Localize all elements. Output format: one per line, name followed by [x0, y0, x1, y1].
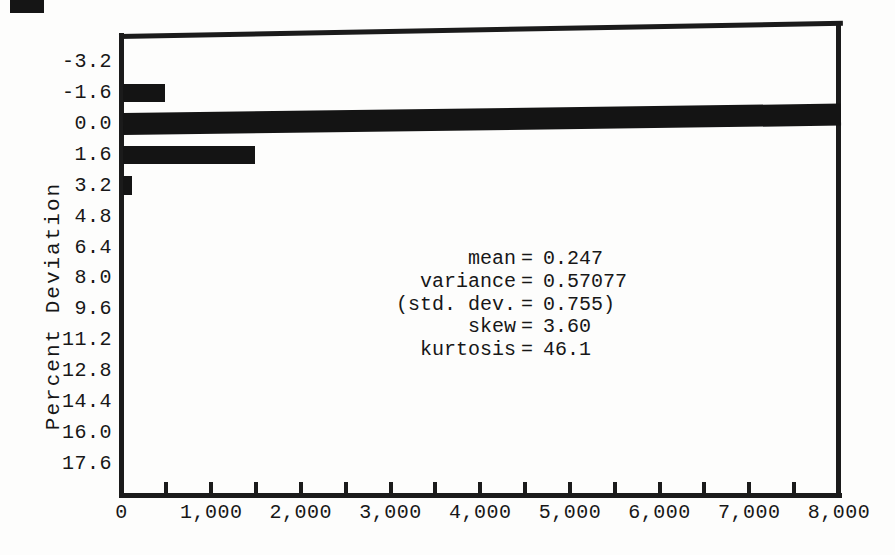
stat-value: 46.1 — [538, 339, 591, 362]
y-tick-label: 8.0 — [26, 267, 112, 289]
x-tick-mark — [164, 482, 168, 494]
y-tick-label: 11.2 — [26, 329, 112, 351]
x-tick-label: 1,000 — [166, 503, 256, 523]
x-tick-mark — [568, 482, 572, 494]
scan-artifact-mark — [10, 0, 44, 13]
stat-value: 0.755) — [538, 294, 615, 317]
stat-label: (std. dev. — [280, 294, 516, 317]
stat-label: skew — [280, 316, 516, 339]
y-tick-label: 16.0 — [26, 422, 112, 444]
equals-sign: = — [516, 339, 538, 362]
y-tick-label: 9.6 — [26, 298, 112, 320]
stat-label: kurtosis — [280, 339, 516, 362]
bar-0.0 — [123, 103, 841, 134]
y-tick-label: 1.6 — [26, 144, 112, 166]
plot-border-left — [119, 33, 124, 498]
x-tick-mark — [299, 482, 303, 494]
equals-sign: = — [516, 271, 538, 294]
x-tick-label: 7,000 — [704, 503, 794, 523]
y-tick-label: 4.8 — [26, 206, 112, 228]
stat-row-skew: skew=3.60 — [280, 316, 627, 339]
y-tick-label: 3.2 — [26, 175, 112, 197]
x-tick-label: 4,000 — [435, 503, 525, 523]
stats-annotation: mean=0.247 variance=0.57077 (std. dev.=0… — [280, 248, 627, 362]
x-tick-label: 0 — [77, 503, 167, 523]
y-tick-label: 0.0 — [26, 113, 112, 135]
x-tick-mark — [344, 482, 348, 494]
y-tick-label: 17.6 — [26, 453, 112, 475]
stat-row-variance: variance=0.57077 — [280, 271, 627, 294]
bar--1.6 — [123, 84, 165, 103]
x-tick-mark — [389, 482, 393, 494]
equals-sign: = — [516, 316, 538, 339]
plot-border-right — [836, 21, 841, 498]
x-tick-mark — [254, 482, 258, 494]
x-tick-mark — [702, 482, 706, 494]
x-tick-label: 2,000 — [256, 503, 346, 523]
stat-value: 0.247 — [538, 248, 603, 271]
bar-3.2 — [123, 176, 132, 195]
x-tick-mark — [747, 482, 751, 494]
stat-value: 3.60 — [538, 316, 591, 339]
y-tick-label: -3.2 — [26, 51, 112, 73]
y-tick-label: -1.6 — [26, 82, 112, 104]
x-tick-mark — [613, 482, 617, 494]
x-axis-line — [119, 493, 842, 498]
stat-label: mean — [280, 248, 516, 271]
stat-row-std-dev: (std. dev.=0.755) — [280, 294, 627, 317]
x-tick-label: 5,000 — [525, 503, 615, 523]
bar-1.6 — [123, 146, 255, 165]
stat-label: variance — [280, 271, 516, 294]
equals-sign: = — [516, 248, 538, 271]
plot-border-top — [119, 21, 843, 39]
stat-row-mean: mean=0.247 — [280, 248, 627, 271]
x-tick-mark — [433, 482, 437, 494]
y-tick-label: 12.8 — [26, 360, 112, 382]
x-tick-mark — [523, 482, 527, 494]
x-tick-label: 8,000 — [794, 503, 884, 523]
x-tick-mark — [209, 482, 213, 494]
x-tick-label: 3,000 — [346, 503, 436, 523]
x-tick-mark — [658, 482, 662, 494]
x-tick-mark — [478, 482, 482, 494]
equals-sign: = — [516, 294, 538, 317]
x-tick-mark — [792, 482, 796, 494]
percent-deviation-histogram: Percent Deviation -3.2-1.60.01.63.24.86.… — [0, 0, 895, 555]
x-tick-label: 6,000 — [615, 503, 705, 523]
stat-value: 0.57077 — [538, 271, 627, 294]
y-tick-label: 14.4 — [26, 391, 112, 413]
stat-row-kurtosis: kurtosis=46.1 — [280, 339, 627, 362]
y-tick-label: 6.4 — [26, 237, 112, 259]
